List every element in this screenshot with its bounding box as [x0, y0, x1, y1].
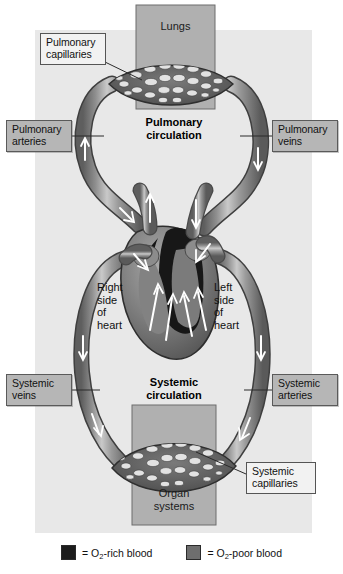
o2-poor-swatch-icon [186, 545, 201, 560]
legend-equals-rich: = [82, 547, 88, 559]
lungs-label: Lungs [136, 20, 215, 33]
callout-systemic-veins[interactable]: Systemic veins [6, 374, 72, 406]
organ-systems-label: Organ systems [132, 487, 216, 513]
pulmonary-circulation-title: Pulmonary circulation [130, 116, 218, 141]
legend-item-o2-rich: = O2-rich blood [61, 545, 152, 560]
figure-canvas: Lungs Organ systems Pulmonary circulatio… [0, 0, 343, 574]
legend-text-o2-rich: = O2-rich blood [82, 547, 152, 559]
systemic-circulation-title: Systemic circulation [128, 376, 220, 401]
legend-equals-poor: = [207, 547, 213, 559]
legend: = O2-rich blood = O2-poor blood [0, 545, 343, 560]
legend-o2-sub-poor: 2 [225, 552, 229, 561]
callout-pulmonary-capillaries[interactable]: Pulmonary capillaries [40, 33, 106, 65]
legend-o2-prefix-poor: O [217, 547, 225, 559]
callout-pulmonary-veins[interactable]: Pulmonary veins [272, 120, 338, 152]
o2-rich-swatch-icon [61, 545, 76, 560]
callout-pulmonary-arteries[interactable]: Pulmonary arteries [6, 120, 72, 152]
legend-text-o2-poor: = O2-poor blood [207, 547, 282, 559]
left-side-of-heart-label: Left side of heart [214, 281, 258, 331]
legend-item-o2-poor: = O2-poor blood [186, 545, 282, 560]
callout-systemic-arteries[interactable]: Systemic arteries [272, 374, 338, 406]
legend-o2-sub-rich: 2 [99, 552, 103, 561]
callout-systemic-capillaries[interactable]: Systemic capillaries [246, 462, 316, 494]
legend-o2-suffix-poor: -poor blood [229, 547, 282, 559]
right-side-of-heart-label: Right side of heart [97, 281, 141, 331]
legend-o2-suffix-rich: -rich blood [103, 547, 152, 559]
